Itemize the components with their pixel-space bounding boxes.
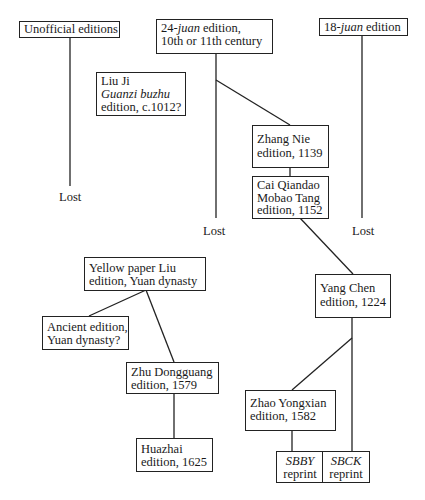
edge-juan24-zhangnie [216, 80, 290, 125]
node-sbck-reprint: SBCKreprint [322, 451, 370, 483]
lost-label-unofficial: Lost [59, 190, 81, 205]
node-text-line: edition, c.1012? [101, 101, 181, 114]
node-zhu-dongguang: Zhu Dongguangedition, 1579 [126, 362, 219, 394]
node-text-line: reprint [281, 468, 319, 481]
node-text-line: edition, 1152 [257, 204, 324, 217]
node-text-line: edition, 1579 [131, 379, 214, 392]
node-yang-chen: Yang Chenedition, 1224 [315, 274, 391, 318]
node-text-line: edition, 1224 [320, 295, 386, 309]
node-text-line: edition, 1139 [257, 146, 324, 160]
node-text-line: 10th or 11th century [161, 35, 268, 48]
node-text-line: Zhang Nie [257, 132, 324, 146]
node-text-line: edition, 1582 [250, 410, 331, 423]
node-ancient-edition: Ancient edition,Yuan dynasty? [42, 316, 129, 350]
node-text-line: reprint [327, 468, 365, 481]
node-text-line: edition, 1625 [141, 456, 208, 469]
node-24-juan-edition: 24-juan edition,10th or 11th century [156, 19, 273, 54]
node-text-line: Unofficial editions [24, 23, 115, 35]
node-text-line: Yuan dynasty? [47, 334, 124, 347]
edge-yellowpaper-ancient [89, 290, 146, 316]
lost-label-18-juan: Lost [352, 224, 374, 239]
edge-yangchen-zhaoyongxian [292, 338, 352, 390]
node-yellow-paper-liu: Yellow paper Liuedition, Yuan dynasty [84, 257, 206, 291]
edge-caiqiandao-yangchen [300, 218, 353, 274]
lost-label-24-juan: Lost [203, 224, 225, 239]
node-zhao-yongxian: Zhao Yongxianedition, 1582 [245, 390, 336, 431]
connector-lines [0, 0, 425, 500]
node-huazhai: Huazhaiedition, 1625 [136, 438, 213, 472]
node-sbby-reprint: SBBYreprint [276, 451, 324, 483]
node-unofficial-editions: Unofficial editions [19, 21, 120, 38]
node-text-line: 18-juan edition [324, 21, 403, 33]
node-cai-qiandao: Cai QiandaoMobao Tangedition, 1152 [252, 176, 329, 219]
node-text-line: edition, Yuan dynasty [89, 275, 201, 288]
node-zhang-nie: Zhang Nieedition, 1139 [252, 125, 329, 168]
node-text-line: Yang Chen [320, 281, 386, 295]
edge-yellowpaper-zhudongguang [146, 290, 174, 362]
node-18-juan-edition: 18-juan edition [319, 18, 408, 36]
node-liu-ji-guanzi-buzhu: Liu JiGuanzi buzhuedition, c.1012? [96, 72, 186, 116]
